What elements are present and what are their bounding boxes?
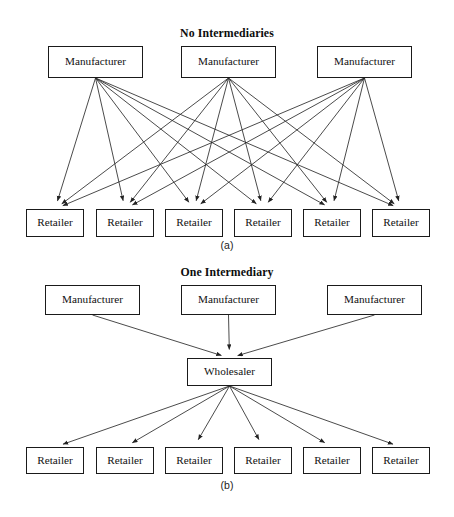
retailer-box: Retailer <box>165 447 223 474</box>
panel-a-edges <box>58 78 399 206</box>
retailer-box: Retailer <box>372 209 430 237</box>
retailer-box: Retailer <box>234 209 292 237</box>
manufacturer-box: Manufacturer <box>48 46 143 78</box>
manufacturer-box: Manufacturer <box>327 285 422 315</box>
retailer-box: Retailer <box>303 209 361 237</box>
panel-a-title: No Intermediaries <box>0 26 454 41</box>
retailer-box: Retailer <box>372 447 430 474</box>
wholesaler-box: Wholesaler <box>187 358 272 386</box>
retailer-box: Retailer <box>96 447 154 474</box>
retailer-box: Retailer <box>26 209 84 237</box>
retailer-box: Retailer <box>234 447 292 474</box>
manufacturer-box: Manufacturer <box>181 285 276 315</box>
retailer-box: Retailer <box>96 209 154 237</box>
retailer-box: Retailer <box>165 209 223 237</box>
retailer-box: Retailer <box>303 447 361 474</box>
manufacturer-box: Manufacturer <box>181 46 276 78</box>
retailer-box: Retailer <box>26 447 84 474</box>
distribution-channel-figure: No Intermediaries (a) One Intermediary (… <box>0 0 454 517</box>
manufacturer-box: Manufacturer <box>45 285 140 315</box>
manufacturer-box: Manufacturer <box>317 46 412 78</box>
panel-a-caption: (a) <box>0 239 454 251</box>
panel-b-title: One Intermediary <box>0 265 454 280</box>
panel-b-caption: (b) <box>0 479 454 491</box>
